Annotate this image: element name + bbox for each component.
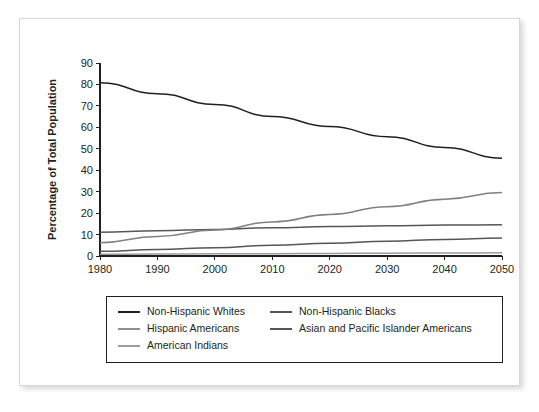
legend-item-label: Non-Hispanic Whites	[147, 305, 245, 317]
y-tick-label: 70	[81, 100, 93, 112]
y-tick-label: 50	[81, 143, 93, 155]
series-line-hispanic-americans	[100, 193, 502, 243]
y-tick-label: 30	[81, 186, 93, 198]
figure-page: 0102030405060708090198019902000201020202…	[0, 0, 539, 412]
chart-canvas: 0102030405060708090198019902000201020202…	[20, 19, 521, 387]
legend-item-label: Hispanic Americans	[147, 322, 239, 334]
x-tick-label: 2000	[203, 263, 227, 275]
legend-item-label: Non-Hispanic Blacks	[299, 305, 396, 317]
series-line-non-hispanic-blacks	[100, 225, 502, 233]
y-tick-label: 80	[81, 78, 93, 90]
y-tick-label: 90	[81, 57, 93, 69]
figure-card: 0102030405060708090198019902000201020202…	[19, 18, 520, 386]
x-tick-label: 2020	[317, 263, 341, 275]
line-chart: 0102030405060708090198019902000201020202…	[20, 19, 521, 387]
legend-item[interactable]: Asian and Pacific Islander Americans	[270, 322, 472, 334]
y-tick-label: 10	[81, 229, 93, 241]
x-tick-label: 2050	[490, 263, 514, 275]
legend-item-label: American Indians	[147, 339, 228, 351]
y-axis-title: Percentage of Total Population	[46, 79, 58, 240]
x-tick-label: 2030	[375, 263, 399, 275]
x-tick-label: 1980	[88, 263, 112, 275]
legend-item-label: Asian and Pacific Islander Americans	[299, 322, 472, 334]
x-tick-label: 1990	[145, 263, 169, 275]
y-tick-label: 20	[81, 207, 93, 219]
y-tick-label: 60	[81, 121, 93, 133]
x-tick-label: 2010	[260, 263, 284, 275]
series-line-asian-and-pacific-islander-americans	[100, 238, 502, 251]
y-tick-label: 0	[87, 250, 93, 262]
series-line-american-indians	[100, 253, 502, 255]
series-line-non-hispanic-whites	[100, 83, 502, 158]
x-tick-label: 2040	[432, 263, 456, 275]
y-tick-label: 40	[81, 164, 93, 176]
